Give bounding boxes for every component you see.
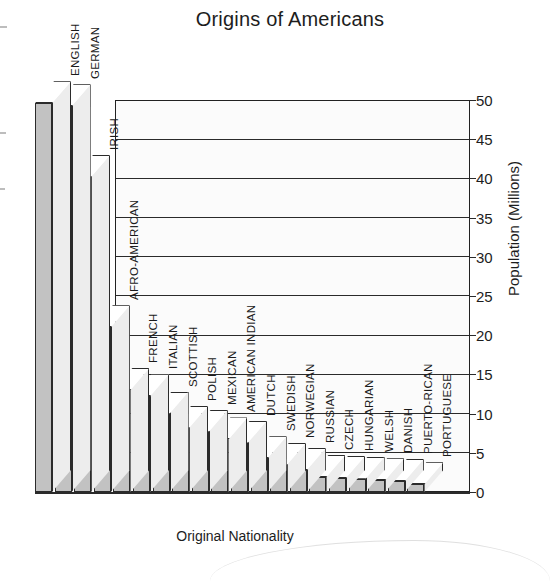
bar-category-label: SCOTTISH	[187, 326, 199, 387]
y-tick-label: 20	[476, 327, 493, 344]
y-tick-label: 5	[476, 444, 484, 461]
y-tick-label: 30	[476, 248, 493, 265]
bar-category-label: DANISH	[402, 408, 414, 453]
bar-category-label: PUERTO-RICAN	[422, 363, 434, 454]
bar-category-label: HUNGARIAN	[363, 379, 375, 451]
bar-side-face	[52, 81, 71, 492]
y-tick-label: 25	[476, 288, 493, 305]
y-tick-label: 0	[476, 484, 484, 501]
bar-category-label: ENGLISH	[69, 24, 81, 77]
page-edge-artifact	[0, 26, 7, 28]
bar-category-label: IRISH	[108, 118, 120, 150]
y-tick-label: 10	[476, 405, 493, 422]
bar-category-label: MEXICAN	[226, 350, 238, 405]
bar-side-face	[72, 84, 91, 492]
page-edge-artifact	[0, 132, 6, 134]
bar-category-label: AFRO-AMERICAN	[128, 200, 140, 300]
bar-category-label: ITALIAN	[167, 325, 179, 370]
bar-category-label: FRENCH	[147, 313, 159, 363]
y-tick-label: 50	[476, 92, 493, 109]
y-tick-label: 15	[476, 366, 493, 383]
y-axis-label: Population (Millions)	[505, 161, 522, 296]
bar-category-label: DUTCH	[265, 374, 277, 416]
base-floor	[35, 492, 470, 494]
bar-category-label: WELSH	[383, 409, 395, 451]
y-tick-label: 35	[476, 209, 493, 226]
bar-category-label: SWEDISH	[285, 376, 297, 432]
page-edge-artifact	[0, 188, 5, 190]
y-tick-label: 45	[476, 131, 493, 148]
bar-category-label: NORWEGIAN	[304, 363, 316, 438]
y-tick-label: 40	[476, 170, 493, 187]
bar-front-face	[35, 103, 52, 492]
bar-category-label: RUSSIAN	[324, 390, 336, 443]
bar-category-label: POLISH	[206, 357, 218, 401]
bar-category-label: PORTUGUESE	[441, 374, 453, 457]
bar-side-face	[91, 155, 110, 492]
bar-category-label: CZECH	[343, 409, 355, 450]
bar-category-label: GERMAN	[89, 27, 101, 79]
bar-side-face	[111, 305, 130, 492]
bar-category-label: AMERICAN INDIAN	[245, 305, 257, 412]
